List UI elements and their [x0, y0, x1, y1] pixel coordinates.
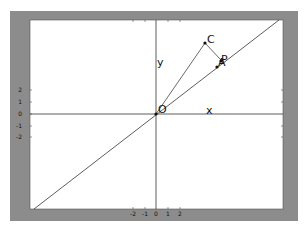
x-tick: 1 — [166, 210, 170, 217]
x-tick: -1 — [142, 210, 148, 217]
x-tick: 2 — [178, 210, 182, 217]
geometry-plot: O C A P y x 2 1 0 -1 -2 -2 -1 0 1 2 — [0, 0, 307, 232]
y-tick: -2 — [16, 133, 22, 140]
label-O: O — [158, 103, 167, 116]
label-P: P — [221, 53, 228, 66]
y-tick: 2 — [18, 86, 22, 93]
x-axis-label: x — [206, 104, 213, 117]
y-tick: 0 — [18, 110, 22, 117]
label-C: C — [207, 33, 215, 46]
y-tick: 1 — [18, 98, 22, 105]
y-tick: -1 — [16, 122, 22, 129]
x-tick: 0 — [154, 210, 158, 217]
x-tick: -2 — [130, 210, 136, 217]
y-axis-label: y — [157, 56, 164, 69]
